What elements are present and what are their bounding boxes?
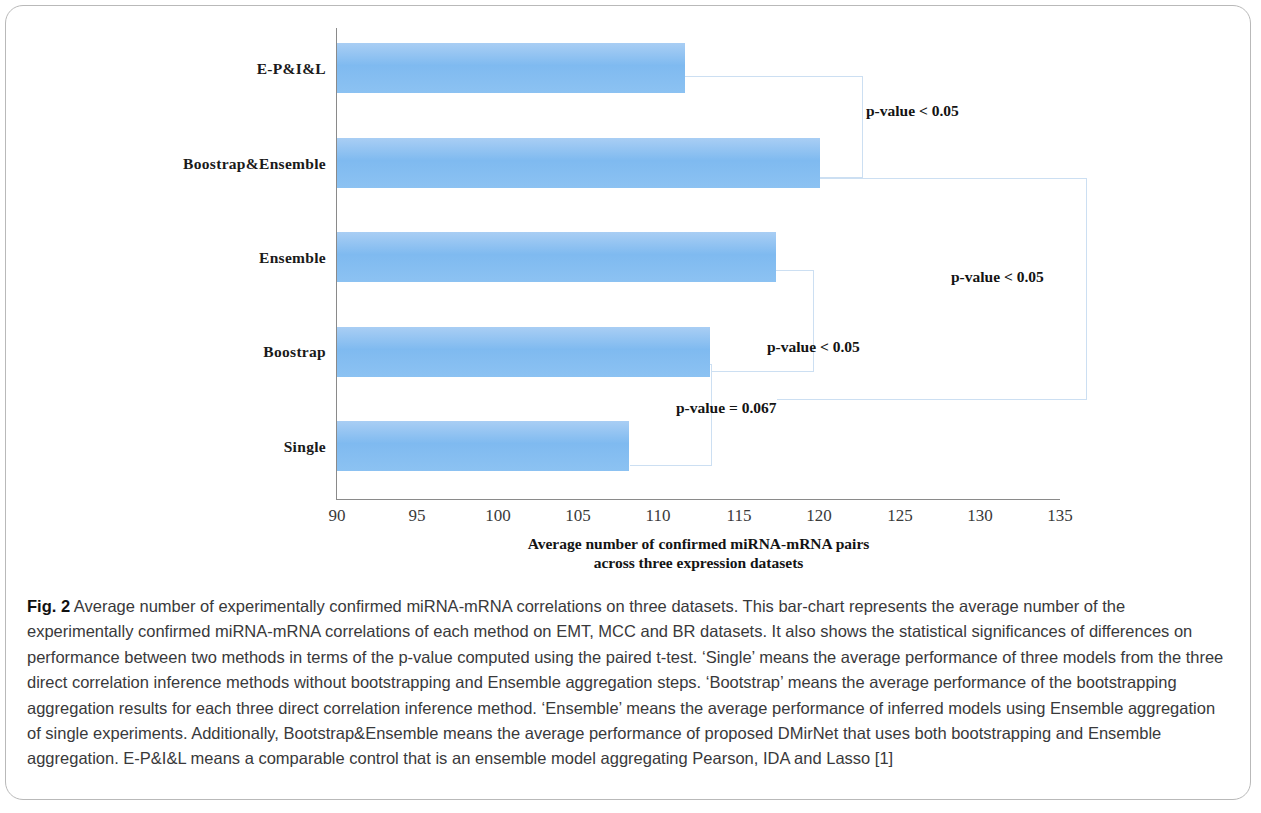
x-tick-125: 125 xyxy=(870,506,930,526)
significance-bracket-bootstrap-vs-ensemble xyxy=(712,270,814,372)
significance-bracket-ensemble-vs-bootstrapensemble xyxy=(777,178,1087,400)
x-axis-title: Average number of confirmed miRNA-mRNA p… xyxy=(337,534,1060,572)
y-axis-category-single: Single xyxy=(0,438,326,458)
bar-single xyxy=(337,421,629,471)
x-tick-130: 130 xyxy=(950,506,1010,526)
pvalue-label-boostrapensemble-vs-eplil: p-value < 0.05 xyxy=(866,102,959,120)
bar-chart: E-P&I&L Boostrap&Ensemble Ensemble Boost… xyxy=(0,0,1261,580)
x-tick-90: 90 xyxy=(307,506,367,526)
x-tick-110: 110 xyxy=(628,506,688,526)
pvalue-label-ensemble-vs-boostrapensemble: p-value < 0.05 xyxy=(951,268,1044,286)
category-label: Boostrap&Ensemble xyxy=(183,155,326,173)
y-axis-category-e-p-i-l: E-P&I&L xyxy=(0,60,326,80)
category-label: E-P&I&L xyxy=(257,60,326,78)
x-tick-135: 135 xyxy=(1030,506,1090,526)
y-axis-category-boostrap-ensemble: Boostrap&Ensemble xyxy=(0,155,326,175)
pvalue-label-single-vs-boostrap: p-value = 0.067 xyxy=(676,399,777,417)
x-axis-title-line2: across three expression datasets xyxy=(337,553,1060,572)
y-axis-category-ensemble: Ensemble xyxy=(0,249,326,269)
x-tick-115: 115 xyxy=(709,506,769,526)
x-axis-line xyxy=(336,499,1060,500)
x-tick-100: 100 xyxy=(468,506,528,526)
figure-label: Fig. 2 xyxy=(27,597,70,615)
bar-boostrap xyxy=(337,327,710,377)
x-tick-120: 120 xyxy=(789,506,849,526)
bar-boostrap-ensemble xyxy=(337,138,820,188)
category-label: Boostrap xyxy=(263,343,326,361)
category-label: Single xyxy=(284,438,326,456)
x-tick-95: 95 xyxy=(387,506,447,526)
figure-caption: Fig. 2 Average number of experimentally … xyxy=(27,594,1233,772)
bar-ensemble xyxy=(337,232,776,282)
category-label: Ensemble xyxy=(259,249,326,267)
figure-caption-text: Average number of experimentally confirm… xyxy=(27,597,1223,767)
x-tick-105: 105 xyxy=(548,506,608,526)
x-axis-title-line1: Average number of confirmed miRNA-mRNA p… xyxy=(337,534,1060,553)
bar-e-p-i-l xyxy=(337,43,685,93)
y-axis-category-boostrap: Boostrap xyxy=(0,343,326,363)
pvalue-label-boostrap-vs-ensemble: p-value < 0.05 xyxy=(767,338,860,356)
figure-page: E-P&I&L Boostrap&Ensemble Ensemble Boost… xyxy=(0,0,1261,813)
